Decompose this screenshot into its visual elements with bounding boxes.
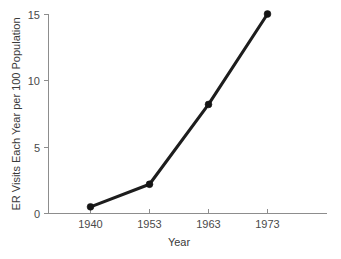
y-axis-title: ER Visits Each Year per 100 Population (10, 17, 22, 210)
data-point-1953 (146, 181, 153, 188)
chart-figure: 15 10 5 0 1940 1953 1963 1973 Year ER Vi… (0, 0, 341, 259)
data-line-er-visits (91, 14, 268, 207)
y-tick-label-10: 10 (28, 75, 40, 87)
y-tick-label-15: 15 (28, 9, 40, 21)
line-chart: 15 10 5 0 1940 1953 1963 1973 Year ER Vi… (0, 0, 341, 259)
data-point-1963 (205, 101, 212, 108)
y-tick-label-0: 0 (34, 208, 40, 220)
x-tick-label-1940: 1940 (78, 218, 102, 230)
x-axis-title: Year (168, 236, 191, 248)
data-markers-group (87, 11, 271, 211)
x-tick-label-1953: 1953 (137, 218, 161, 230)
data-point-1973 (264, 11, 271, 18)
x-tick-label-1963: 1963 (196, 218, 220, 230)
x-tick-label-1973: 1973 (255, 218, 279, 230)
y-tick-label-5: 5 (34, 142, 40, 154)
data-point-1940 (87, 203, 94, 210)
